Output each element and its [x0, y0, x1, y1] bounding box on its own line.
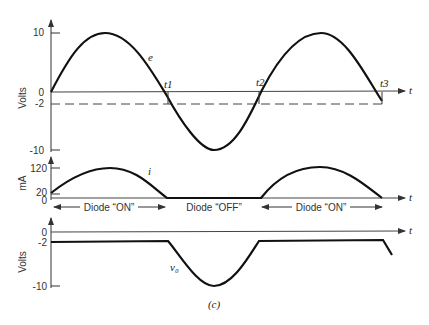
tick-120: 120 [30, 163, 47, 174]
marker-t2: t2 [256, 76, 265, 88]
bottom-plot: 0 -2 -10 Volts v₀ t [17, 218, 413, 292]
top-time-label: t [409, 84, 413, 96]
curve-label-vo: v₀ [170, 261, 179, 273]
diode-clipper-waveforms: 10 0 -2 -10 Volts e t1 t2 t3 t 120 20 0 … [0, 0, 429, 325]
diode-current-curve-i [51, 167, 382, 198]
middle-ylabel: mA [17, 175, 28, 190]
tick-minus-2: -2 [35, 98, 44, 109]
tick-10: 10 [33, 27, 45, 38]
output-voltage-curve-vo [51, 240, 392, 286]
middle-plot: 120 20 0 mA i t Diode “ON” Diode “OFF” D… [17, 157, 413, 213]
tick-0-ma: 0 [41, 195, 47, 206]
tick-0: 0 [38, 87, 44, 98]
top-time-axis [51, 91, 405, 92]
bottom-ylabel: Volts [17, 251, 28, 273]
marker-t1: t1 [164, 78, 173, 90]
region-diode-on-2: Diode “ON” [296, 202, 347, 213]
marker-t3: t3 [380, 77, 389, 89]
tick-minus-10-bottom: -10 [33, 281, 48, 292]
curve-label-i: i [148, 165, 151, 177]
bottom-time-label: t [409, 224, 413, 236]
top-plot: 10 0 -2 -10 Volts e t1 t2 t3 t [17, 20, 413, 156]
top-ylabel: Volts [17, 87, 28, 109]
tick-minus-10: -10 [30, 145, 45, 156]
region-diode-off: Diode “OFF” [186, 202, 242, 213]
region-diode-on-1: Diode “ON” [84, 202, 135, 213]
tick-minus-2-bottom: -2 [38, 237, 47, 248]
figure-caption: (c) [208, 298, 221, 311]
middle-time-label: t [409, 191, 413, 203]
bottom-time-axis [51, 231, 405, 232]
curve-label-e: e [148, 51, 153, 63]
